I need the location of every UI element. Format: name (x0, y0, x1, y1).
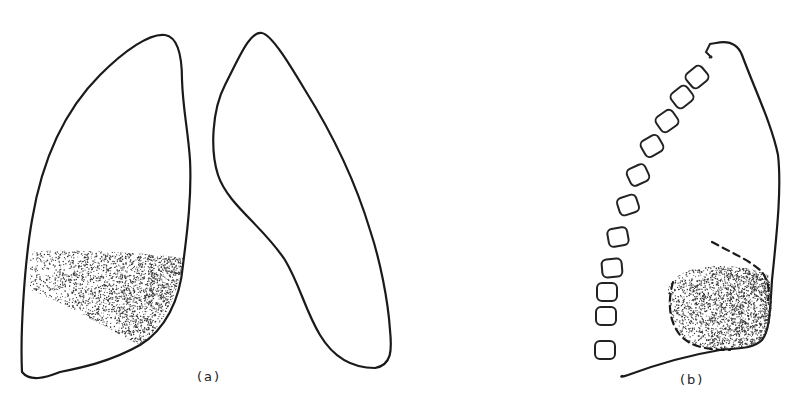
vertebra-icon (669, 84, 696, 110)
vertebra-icon (597, 283, 617, 301)
vertebra-icon (607, 226, 630, 247)
stippled-opacity-a (27, 244, 188, 351)
vertebrae (595, 43, 716, 359)
vertebra-icon (654, 108, 681, 134)
panel-b (595, 42, 779, 377)
vertebra-icon (596, 307, 616, 325)
lateral-lung-outline (621, 42, 779, 377)
stippled-opacity-b (664, 257, 775, 353)
vertebra-icon (684, 64, 711, 91)
left-lung-outline (22, 35, 191, 378)
vertebra-icon (601, 258, 622, 278)
vertebra-icon (625, 163, 651, 188)
vertebra-icon (616, 193, 641, 216)
panel-b-label: (b) (680, 372, 704, 387)
vertebra-icon (639, 133, 665, 159)
vertebra-partial-icon (706, 43, 716, 58)
panel-a (22, 33, 391, 378)
right-lung-outline (213, 33, 391, 368)
panel-a-label: (a) (197, 369, 221, 384)
lung-diagram (0, 0, 795, 410)
vertebra-icon (595, 341, 615, 359)
